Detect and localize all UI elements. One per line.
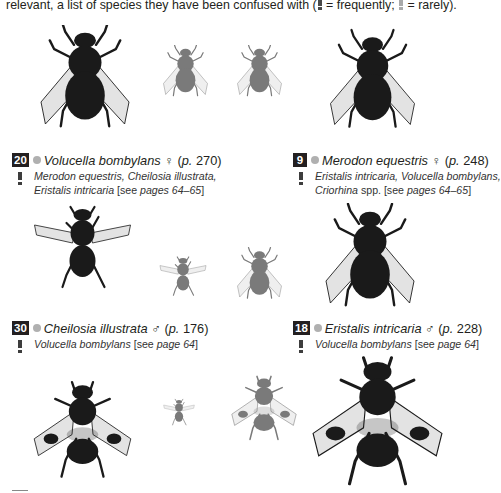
volucella-pellucens-large-image (5, 380, 160, 485)
intro-lead: relevant, a list of species they have be… (6, 0, 317, 12)
rare-marker-icon (399, 0, 403, 10)
species-name: Cheilosia illustrata ♂ (p. 176) (44, 321, 209, 336)
cheilosia-illustrata-small-image (148, 255, 218, 303)
male-symbol-icon: ♂ (425, 321, 435, 336)
plate-number-badge: 18 (293, 321, 310, 335)
plate-number-badge: 20 (12, 153, 29, 167)
frequent-marker-icon (12, 170, 28, 197)
see-pages-link[interactable]: pages 64–65 (140, 184, 201, 196)
see-page-link[interactable]: page 64 (438, 338, 476, 350)
volucella-pellucens-xlarge-image (285, 355, 470, 493)
grey-dot-icon (33, 156, 41, 164)
confusion-species-list: Eristalis intricaria, Volucella bombylan… (315, 170, 501, 197)
female-symbol-icon: ♀ (432, 153, 442, 168)
merodon-equestris-large-image (320, 25, 425, 140)
frequent-marker-icon (12, 338, 28, 353)
see-pages-link[interactable]: pages 64–65 (407, 184, 468, 196)
page-reference[interactable]: (p. 248) (445, 153, 489, 168)
plate-number-badge: 30 (12, 321, 29, 335)
confusion-species-list: Merodon equestris, Cheilosia illustrata,… (34, 170, 217, 197)
frequent-marker-icon (293, 170, 309, 197)
rare-label: = rarely). (404, 0, 457, 12)
confusion-species-list: Volucella bombylans [see page 64] (315, 338, 479, 353)
species-name: Eristalis intricaria ♂ (p. 228) (325, 321, 483, 336)
volucella-pellucens-tiny-image (158, 398, 200, 430)
species-entry: 30 Cheilosia illustrata ♂ (p. 176) Voluc… (12, 320, 209, 353)
frequent-label: = frequently; (323, 0, 398, 12)
confusion-species-list: Volucella bombylans [see page 64] (34, 338, 198, 353)
plate-number-badge: 9 (293, 153, 307, 167)
volucella-bombylans-large-image (15, 25, 155, 135)
cheilosia-illustrata-large-image (5, 203, 160, 303)
species-name: Volucella bombylans ♀ (p. 270) (44, 153, 222, 168)
page-reference[interactable]: (p. 228) (438, 321, 482, 336)
female-symbol-icon: ♀ (164, 153, 174, 168)
page-reference[interactable]: (p. 270) (177, 153, 221, 168)
species-entry: 20 Volucella bombylans ♀ (p. 270) Merodo… (12, 152, 222, 197)
grey-dot-icon (311, 156, 319, 164)
frequent-marker-icon (318, 0, 322, 10)
species-name: Merodon equestris ♀ (p. 248) (322, 153, 489, 168)
page-reference[interactable]: (p. 176) (164, 321, 208, 336)
grey-dot-icon (33, 324, 41, 332)
merodon-equestris-small-image (232, 45, 287, 100)
species-entry: 18 Eristalis intricaria ♂ (p. 228) Voluc… (293, 320, 482, 353)
species-entry: 9 Merodon equestris ♀ (p. 248) Eristalis… (293, 152, 501, 197)
grey-dot-icon (314, 324, 322, 332)
male-symbol-icon: ♂ (151, 321, 161, 336)
volucella-bombylans-small-image (158, 45, 213, 100)
scale-bar (12, 490, 28, 491)
eristalis-intricaria-large-image (315, 203, 425, 315)
intro-text: relevant, a list of species they have be… (6, 0, 457, 13)
see-page-link[interactable]: page 64 (157, 338, 195, 350)
frequent-marker-icon (293, 338, 309, 353)
eristalis-intricaria-small-image (232, 245, 287, 305)
